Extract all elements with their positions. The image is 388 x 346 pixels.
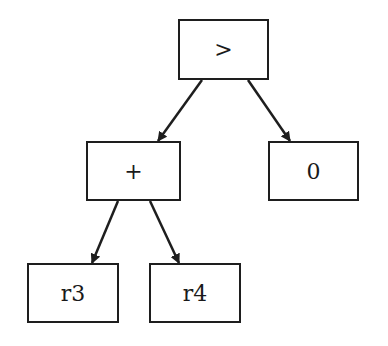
edge-plus-to-r3	[92, 201, 118, 263]
node-label: +	[124, 159, 142, 184]
node-label: 0	[307, 159, 321, 184]
expression-tree-diagram: > + 0 r3 r4	[0, 0, 388, 346]
edge-gt-to-zero	[248, 80, 290, 141]
edge-gt-to-plus	[158, 80, 202, 141]
node-label: r3	[61, 281, 86, 306]
node-r4: r4	[149, 263, 241, 323]
node-greater-than: >	[178, 19, 269, 80]
node-label: >	[214, 37, 232, 62]
node-r3: r3	[27, 263, 119, 323]
node-plus: +	[86, 141, 181, 201]
node-label: r4	[183, 281, 208, 306]
edge-plus-to-r4	[150, 201, 179, 263]
node-zero: 0	[268, 141, 359, 201]
